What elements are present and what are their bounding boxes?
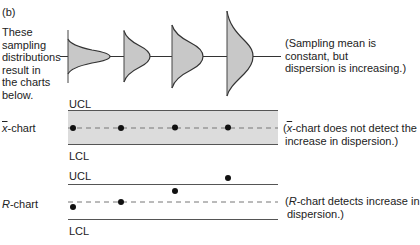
note-text: -chart detects increase in [297, 195, 420, 207]
r-lcl-label: LCL [69, 225, 89, 237]
data-point [118, 125, 124, 131]
r-ucl-label: UCL [69, 170, 91, 182]
data-point [172, 188, 178, 194]
xbar-chart [68, 110, 278, 145]
data-point [118, 199, 124, 205]
xbar-lcl-label: LCL [69, 150, 89, 162]
data-point [70, 125, 76, 131]
chart-suffix: -chart [10, 198, 38, 210]
r-chart [68, 175, 278, 220]
r-symbol: R [2, 198, 10, 210]
data-point [225, 125, 231, 131]
xbar-ucl-label: UCL [69, 98, 91, 110]
note-text: -chart does not detect the [292, 122, 417, 134]
r-symbol: R [289, 195, 297, 207]
note-line: (R-chart detects increase in [285, 195, 420, 208]
note-line: (x-chart does not detect the [283, 122, 417, 135]
xbar-chart-title: x-chart [2, 122, 36, 134]
distribution-curve-1 [68, 30, 110, 83]
note-line: increase in dispersion.) [285, 135, 398, 148]
note-line: (Sampling mean is [285, 37, 376, 50]
distribution-curve-2 [124, 30, 150, 82]
distribution-curve-3 [172, 25, 203, 88]
note-line: constant, but [285, 50, 348, 63]
data-point [225, 175, 231, 181]
data-point [70, 204, 76, 210]
r-chart-title: R-chart [2, 198, 38, 210]
chart-suffix: -chart [8, 122, 36, 134]
distribution-curve-4 [227, 11, 253, 96]
data-point [172, 125, 178, 131]
note-line: dispersion is increasing.) [285, 62, 406, 75]
sampling-distributions [60, 11, 281, 96]
note-line: dispersion.) [287, 208, 344, 221]
